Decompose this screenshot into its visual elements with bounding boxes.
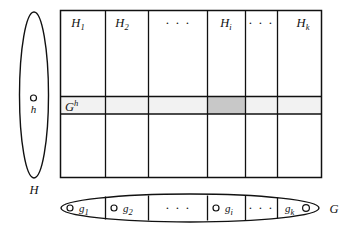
gi-point-icon [213, 205, 219, 211]
column-header-hk: Hk [296, 16, 310, 32]
column-header-labels: H1 H2 · · · Hi · · · Hk [70, 15, 309, 32]
g-ellipsis-right: · · · [248, 200, 274, 215]
g1-point-icon [67, 205, 73, 211]
column-header-hi: Hi [219, 16, 232, 32]
column-header-h1: H1 [70, 16, 84, 32]
g2-point-icon [111, 205, 117, 211]
column-header-ellipsis-right: · · · [248, 15, 274, 30]
h-element-label: h [31, 103, 37, 115]
g1-label-sub: 1 [85, 207, 89, 217]
coset-decomposition-diagram: h H H1 [0, 0, 352, 229]
coset-table-grid [61, 11, 322, 178]
column-header-h2-sub: 2 [124, 22, 129, 32]
gh-row-highlight [61, 97, 322, 115]
column-header-hk-sub: k [306, 22, 310, 32]
h-point-icon [31, 95, 37, 101]
g2-label: g2 [123, 202, 134, 217]
gh-hi-cell-highlight [208, 97, 246, 115]
h-set-label: H [28, 183, 39, 197]
gh-row-label-base: G [65, 100, 74, 114]
g-set-label: G [329, 202, 338, 216]
gh-row-label-sup: h [74, 98, 78, 108]
h-group-ellipse: h H [20, 12, 49, 197]
g1-label: g1 [79, 202, 89, 217]
column-header-ellipsis-left: · · · [165, 15, 191, 30]
gi-label-sub: i [231, 207, 234, 217]
g-ellipsis-left: · · · [165, 200, 191, 215]
row-highlight-layer [61, 97, 322, 115]
table-outer-border [61, 11, 322, 178]
gk-point-icon [303, 205, 310, 212]
gk-label: gk [285, 202, 295, 217]
column-header-h1-sub: 1 [80, 22, 84, 32]
column-header-hi-sub: i [229, 22, 232, 32]
g-group-ellipse: g1 g2 · · · gi · · · gk G [61, 194, 339, 222]
gi-label: gi [225, 202, 234, 217]
column-header-h2: H2 [114, 16, 129, 32]
g2-label-sub: 2 [129, 207, 134, 217]
figure-container: h H H1 [0, 0, 352, 229]
gk-label-sub: k [291, 207, 295, 217]
